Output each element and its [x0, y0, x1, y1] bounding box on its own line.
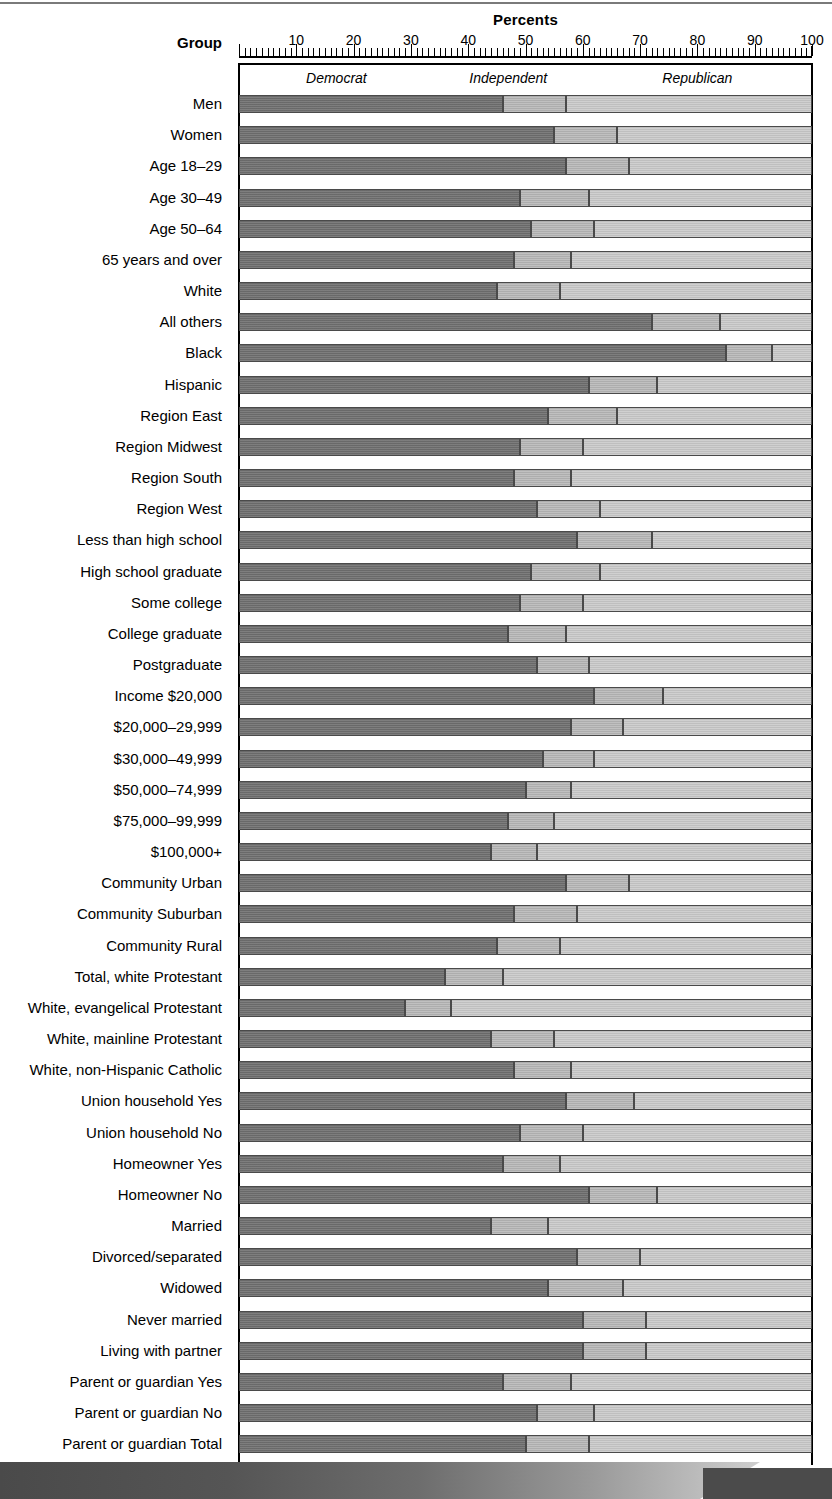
bar-segment-republican: [503, 968, 812, 986]
bar-segment-independent: [566, 157, 629, 175]
bar-segment-independent: [514, 905, 577, 923]
axis-tick-minor: [440, 48, 441, 56]
axis-tick-minor: [250, 48, 251, 56]
row-label: Age 50–64: [0, 220, 222, 238]
axis-tick-minor: [308, 48, 309, 56]
stacked-bar: [239, 1248, 812, 1266]
bar-segment-independent: [548, 1279, 622, 1297]
row-label: $50,000–74,999: [0, 781, 222, 799]
chart-row: White, non-Hispanic Catholic: [0, 1061, 832, 1079]
row-label: Region South: [0, 469, 222, 487]
axis-tick-minor: [503, 48, 504, 56]
stacked-bar: [239, 750, 812, 768]
axis-tick-minor: [594, 48, 595, 56]
chart-row: Union household No: [0, 1124, 832, 1142]
axis-tick-minor: [313, 48, 314, 56]
stacked-bar: [239, 189, 812, 207]
bar-segment-democrat: [239, 999, 405, 1017]
bar-segment-republican: [594, 750, 812, 768]
bar-segment-independent: [566, 1092, 635, 1110]
axis-tick-label: 10: [289, 32, 305, 48]
bar-segment-democrat: [239, 625, 508, 643]
bar-segment-independent: [583, 1342, 646, 1360]
axis-tick-minor: [692, 48, 693, 56]
axis-tick-minor: [554, 48, 555, 56]
bar-segment-republican: [571, 1373, 812, 1391]
stacked-bar: [239, 1279, 812, 1297]
axis-tick-minor: [760, 48, 761, 56]
stacked-bar: [239, 1404, 812, 1422]
chart-row: Never married: [0, 1311, 832, 1329]
chart-row: Region Midwest: [0, 438, 832, 456]
axis-tick-label: 60: [575, 32, 591, 48]
axis-tick-minor: [663, 48, 664, 56]
axis-tick-minor: [474, 48, 475, 56]
stacked-bar: [239, 812, 812, 830]
bar-segment-independent: [508, 625, 565, 643]
stacked-bar: [239, 376, 812, 394]
bar-segment-independent: [497, 282, 560, 300]
bar-segment-democrat: [239, 1435, 526, 1453]
chart-row: $100,000+: [0, 843, 832, 861]
stacked-bar: [239, 1061, 812, 1079]
stacked-bar: [239, 95, 812, 113]
bar-segment-independent: [520, 189, 589, 207]
bar-segment-independent: [514, 469, 571, 487]
row-label: Parent or guardian No: [0, 1404, 222, 1422]
axis-tick-label: 20: [346, 32, 362, 48]
bar-segment-democrat: [239, 874, 566, 892]
bar-segment-democrat: [239, 1155, 503, 1173]
row-label: All others: [0, 313, 222, 331]
bar-segment-republican: [646, 1311, 812, 1329]
stacked-bar: [239, 344, 812, 362]
bar-segment-independent: [491, 1030, 554, 1048]
chart-row: Parent or guardian Total: [0, 1435, 832, 1453]
bar-segment-republican: [583, 438, 812, 456]
bar-segment-independent: [577, 531, 651, 549]
bar-segment-republican: [560, 1155, 812, 1173]
row-label: Men: [0, 95, 222, 113]
chart-row: Region South: [0, 469, 832, 487]
bar-segment-independent: [589, 376, 658, 394]
axis-tick-minor: [245, 48, 246, 56]
chart-row: Age 50–64: [0, 220, 832, 238]
axis-tick-minor: [451, 48, 452, 56]
row-label: Divorced/separated: [0, 1248, 222, 1266]
chart-row: Black: [0, 344, 832, 362]
axis-tick-label: 80: [690, 32, 706, 48]
bar-segment-democrat: [239, 656, 537, 674]
chart-row: Widowed: [0, 1279, 832, 1297]
axis-tick-minor: [462, 48, 463, 56]
bar-segment-independent: [491, 1217, 548, 1235]
axis-tick-minor: [485, 48, 486, 56]
axis-tick-minor: [531, 48, 532, 56]
legend-label-independent: Independent: [469, 70, 547, 86]
chart-row: Women: [0, 126, 832, 144]
bar-segment-democrat: [239, 1061, 514, 1079]
row-label: White: [0, 282, 222, 300]
axis-tick-minor: [726, 48, 727, 56]
bar-segment-democrat: [239, 531, 577, 549]
stacked-bar: [239, 438, 812, 456]
axis-tick-minor: [783, 48, 784, 56]
axis-tick-minor: [331, 48, 332, 56]
bar-segment-republican: [589, 189, 812, 207]
bar-segment-democrat: [239, 438, 520, 456]
bar-segment-republican: [583, 594, 812, 612]
bar-segment-democrat: [239, 344, 726, 362]
axis-tick-label: 30: [403, 32, 419, 48]
axis-tick-minor: [434, 48, 435, 56]
bar-segment-democrat: [239, 126, 554, 144]
bar-segment-republican: [652, 531, 812, 549]
bar-segment-republican: [600, 563, 812, 581]
row-label: Some college: [0, 594, 222, 612]
axis-tick-minor: [537, 48, 538, 56]
stacked-bar: [239, 1155, 812, 1173]
stacked-bar: [239, 126, 812, 144]
chart-row: Less than high school: [0, 531, 832, 549]
bar-segment-democrat: [239, 1404, 537, 1422]
axis-tick-minor: [336, 48, 337, 56]
row-label: Black: [0, 344, 222, 362]
stacked-bar: [239, 1435, 812, 1453]
axis-tick-minor: [766, 48, 767, 56]
